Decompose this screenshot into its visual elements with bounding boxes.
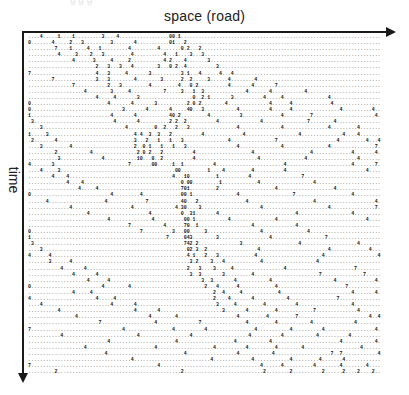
space-axis-line (22, 31, 388, 33)
grid-row: ...........4.......4....................… (28, 266, 386, 272)
grid-row: ....3............................4......… (28, 125, 386, 131)
grid-row: ..............4....................4....… (28, 205, 386, 211)
grid-row: 0...........................4.........4.… (28, 192, 386, 198)
grid-row: .........2..............................… (28, 369, 386, 375)
bleed-through-text: g g g (70, 0, 370, 4)
grid-row: .2.......4..........................3...… (28, 138, 386, 144)
grid-row: .......3......4.........................… (28, 259, 386, 265)
space-time-grid: ....4.....1....1.........3....4.........… (28, 34, 386, 375)
grid-row: .........2...........4...............2.0… (28, 150, 386, 156)
grid-row: 7...............................4.......… (28, 327, 386, 333)
grid-row: ...............4.......4................… (28, 272, 386, 278)
grid-row: ........7..............3...3........4...… (28, 77, 386, 83)
grid-row: ...........................4............… (28, 217, 386, 223)
grid-row: .......................2...3...3...4....… (28, 64, 386, 70)
x-axis-label: space (road) (0, 8, 409, 24)
grid-row: ......4...................4.............… (28, 199, 386, 205)
arrow-down-icon (18, 373, 28, 383)
arrow-right-icon (386, 27, 396, 37)
grid-row: ....................4...................… (28, 211, 386, 217)
grid-row: ...............7...........2...3........… (28, 83, 386, 89)
grid-row: ...........................4............… (28, 339, 386, 345)
time-axis-line (22, 31, 24, 375)
grid-row: ...........4.........................4..… (28, 333, 386, 339)
grid-row: 1.....3.............................4.4.… (28, 132, 386, 138)
y-axis-label: time (6, 160, 22, 200)
grid-row: ....3.........4.....................2..0… (28, 144, 386, 150)
